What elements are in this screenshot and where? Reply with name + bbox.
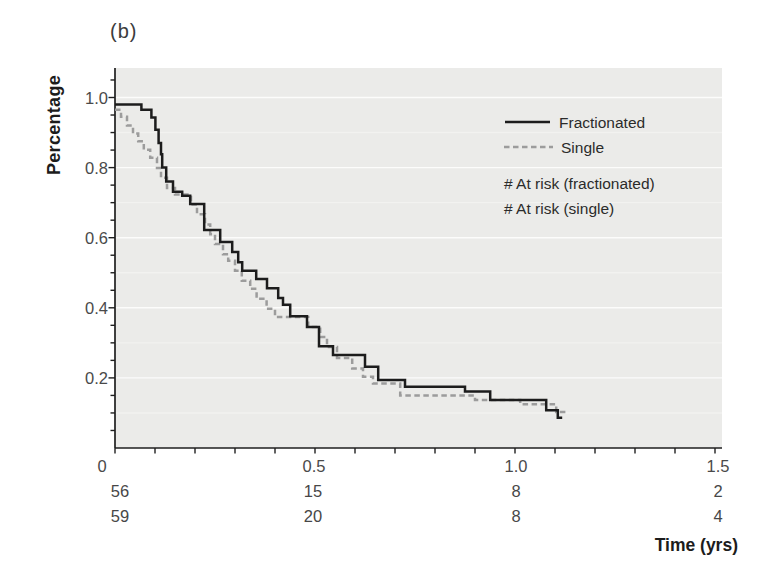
legend-item-single: Single bbox=[504, 136, 604, 158]
at-risk-count-single: 8 bbox=[486, 505, 546, 527]
at-risk-count-fractionated: 56 bbox=[90, 480, 150, 502]
x-axis-title: Time (yrs) bbox=[620, 535, 738, 556]
x-tick-label: 0 bbox=[72, 455, 132, 477]
at-risk-header-single: # At risk (single) bbox=[504, 198, 614, 219]
at-risk-count-single: 4 bbox=[688, 505, 748, 527]
at-risk-header-fractionated: # At risk (fractionated) bbox=[504, 173, 655, 194]
x-tick-label: 1.5 bbox=[688, 455, 748, 477]
at-risk-count-fractionated: 2 bbox=[688, 480, 748, 502]
y-tick-label: 0.8 bbox=[62, 158, 108, 178]
legend-line-dashed-icon bbox=[504, 143, 553, 151]
x-tick-label: 0.5 bbox=[284, 455, 344, 477]
at-risk-count-single: 59 bbox=[90, 505, 150, 527]
y-tick-label: 0.4 bbox=[62, 298, 108, 318]
legend-label-fractionated: Fractionated bbox=[559, 112, 645, 133]
x-tick-label: 1.0 bbox=[486, 455, 546, 477]
legend-label-single: Single bbox=[561, 137, 604, 158]
at-risk-count-fractionated: 15 bbox=[283, 480, 343, 502]
at-risk-count-fractionated: 8 bbox=[486, 480, 546, 502]
at-risk-count-single: 20 bbox=[283, 505, 343, 527]
km-figure: (b) Percentage 0.20.40.60.81.0 00.51.01.… bbox=[0, 0, 766, 580]
y-tick-label: 1.0 bbox=[62, 88, 108, 108]
legend-line-solid-icon bbox=[504, 118, 551, 126]
y-tick-label: 0.2 bbox=[62, 368, 108, 388]
legend-item-fractionated: Fractionated bbox=[504, 111, 645, 133]
y-tick-label: 0.6 bbox=[62, 228, 108, 248]
